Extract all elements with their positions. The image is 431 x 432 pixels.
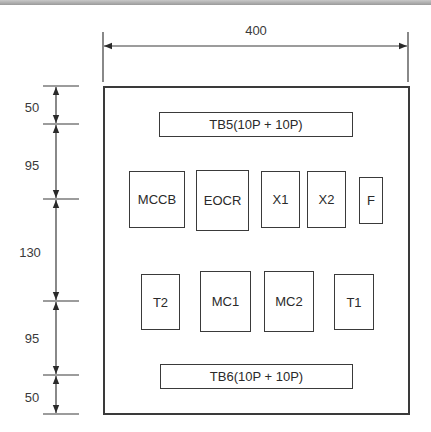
component-t2: T2 (141, 274, 180, 330)
vertical-dimension-label: 50 (25, 100, 39, 115)
component-t1: T1 (334, 274, 374, 330)
component-mccb: MCCB (129, 171, 185, 228)
component-x2: X2 (307, 171, 346, 228)
terminal-block-tb5: TB5(10P + 10P) (159, 112, 353, 137)
component-eocr: EOCR (196, 170, 249, 231)
vertical-dimension-label: 130 (19, 245, 41, 260)
component-mc1: MC1 (200, 271, 251, 332)
width-dimension-label: 400 (245, 23, 267, 38)
terminal-block-tb6: TB6(10P + 10P) (160, 364, 353, 389)
vertical-dimension-label: 50 (25, 390, 39, 405)
component-mc2: MC2 (264, 271, 314, 332)
vertical-dimension-label: 95 (25, 331, 39, 346)
component-x1: X1 (261, 171, 300, 228)
vertical-dimension-label: 95 (25, 158, 39, 173)
component-fuse: F (359, 177, 383, 224)
